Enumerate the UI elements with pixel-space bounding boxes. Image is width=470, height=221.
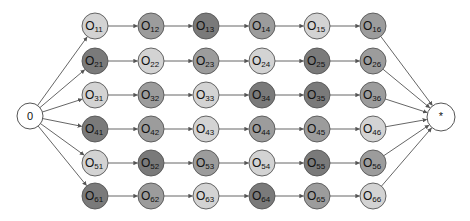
operation-node-o22: O22 <box>138 48 164 74</box>
operation-node-o34: O34 <box>249 82 275 108</box>
operation-node-o15: O15 <box>304 13 330 39</box>
operation-node-o24: O24 <box>249 48 275 74</box>
operation-node-o23: O23 <box>193 48 219 74</box>
edge-start-to-o51 <box>41 124 85 155</box>
operation-node-o46: O46 <box>360 116 386 142</box>
edge-start-to-o61 <box>38 126 86 185</box>
operation-node-o33: O33 <box>193 82 219 108</box>
operation-node-o42: O42 <box>138 116 164 142</box>
edge-o16-to-end <box>381 36 433 105</box>
operation-node-o56: O56 <box>360 150 386 176</box>
operation-node-o66: O66 <box>360 183 386 209</box>
operation-node-o26: O26 <box>360 48 386 74</box>
edge-start-to-o31 <box>42 99 82 112</box>
operation-node-o14: O14 <box>249 13 275 39</box>
edge-o56-to-end <box>384 125 429 156</box>
operation-node-o45: O45 <box>304 116 330 142</box>
operation-node-o32: O32 <box>138 82 164 108</box>
operation-node-o53: O53 <box>193 150 219 176</box>
start-node-label: 0 <box>27 110 33 122</box>
operation-node-o31: O31 <box>82 82 108 108</box>
edge-o66-to-end <box>381 128 431 186</box>
operation-node-o13: O13 <box>193 13 219 39</box>
operation-node-o61: O61 <box>82 183 108 209</box>
job-shop-graph: 0*O11O12O13O14O15O16O21O22O23O24O25O26O3… <box>0 0 470 221</box>
operation-node-o44: O44 <box>249 116 275 142</box>
operation-node-o55: O55 <box>304 150 330 176</box>
operation-node-o43: O43 <box>193 116 219 142</box>
operation-node-o21: O21 <box>82 48 108 74</box>
operation-node-o64: O64 <box>249 183 275 209</box>
operation-node-o11: O11 <box>82 13 108 39</box>
operation-node-o62: O62 <box>138 183 164 209</box>
edge-start-to-o11 <box>38 37 87 106</box>
edge-o46-to-end <box>386 120 427 127</box>
operation-node-o35: O35 <box>304 82 330 108</box>
edge-start-to-o21 <box>40 70 85 108</box>
operation-node-o36: O36 <box>360 82 386 108</box>
operation-node-o52: O52 <box>138 150 164 176</box>
operation-node-o51: O51 <box>82 150 108 176</box>
edge-start-to-o41 <box>43 119 82 127</box>
start-node: 0 <box>17 103 43 129</box>
operation-node-o65: O65 <box>304 183 330 209</box>
operation-node-o41: O41 <box>82 116 108 142</box>
end-node-label: * <box>439 110 444 122</box>
operation-node-o16: O16 <box>360 13 386 39</box>
operation-node-o12: O12 <box>138 13 164 39</box>
operation-node-o25: O25 <box>304 48 330 74</box>
operation-node-o54: O54 <box>249 150 275 176</box>
operation-node-o63: O63 <box>193 183 219 209</box>
end-node: * <box>427 103 455 131</box>
edge-o26-to-end <box>383 69 430 108</box>
